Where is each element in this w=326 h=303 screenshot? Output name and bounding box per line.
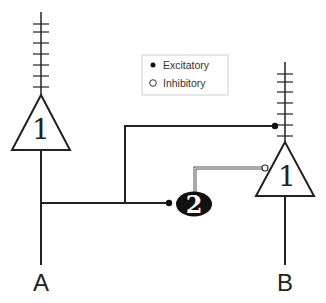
legend: Excitatory Inhibitory	[142, 55, 228, 95]
axon-label-a: A	[33, 269, 49, 296]
legend-excitatory-label: Excitatory	[163, 59, 210, 71]
inhibitory-synapse-circle	[262, 165, 268, 171]
inhibitory-axon-inner	[195, 168, 262, 193]
neural-circuit-diagram: 1 A 2 1 B Excit	[0, 0, 326, 303]
left-neuron: 1 A	[12, 12, 70, 296]
excitatory-synapse-dot-interneuron	[166, 200, 172, 206]
legend-inhibitory-label: Inhibitory	[163, 77, 206, 89]
inhibitory-legend-icon	[150, 80, 157, 87]
excitatory-collaterals	[41, 126, 275, 203]
excitatory-synapse-dot-right	[272, 123, 278, 129]
interneuron: 2	[176, 165, 268, 219]
excitatory-legend-icon	[151, 63, 156, 68]
left-soma-label: 1	[32, 113, 50, 146]
interneuron-label: 2	[186, 190, 203, 219]
inhibitory-axon-outer	[195, 168, 262, 193]
right-neuron: 1 B	[256, 62, 314, 296]
axon-label-b: B	[277, 269, 293, 296]
right-soma-label: 1	[278, 160, 296, 193]
